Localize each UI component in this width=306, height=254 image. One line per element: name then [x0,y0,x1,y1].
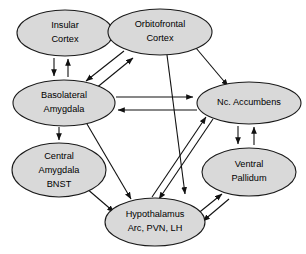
node-shape-ventral-pallidum [202,148,296,196]
brain-circuit-diagram: Insular Cortex Orbitofrontal Cortex Baso… [0,0,306,254]
node-label-orbitofrontal-cortex-line2: Cortex [146,33,173,43]
node-ventral-pallidum[interactable]: Ventral Pallidum [202,148,296,196]
diagram-canvas: Insular Cortex Orbitofrontal Cortex Baso… [0,0,306,254]
node-label-hypothalamus-line2: Arc, PVN, LH [128,223,183,233]
node-label-basolateral-amygdala-line2: Amygdala [44,104,86,114]
edge-central-amygdala-to-hypothalamus [86,188,114,212]
node-orbitofrontal-cortex[interactable]: Orbitofrontal Cortex [108,9,212,55]
edge-ventral-pallidum-to-hypothalamus [203,199,229,221]
node-label-insular-cortex-line1: Insular [51,20,79,30]
node-label-insular-cortex-line2: Cortex [51,34,78,44]
edge-basolateral-to-orbitofrontal [95,58,133,89]
node-hypothalamus[interactable]: Hypothalamus Arc, PVN, LH [105,198,205,246]
node-nc-accumbens[interactable]: Nc. Accumbens [197,82,301,124]
node-label-hypothalamus-line1: Hypothalamus [126,209,185,219]
node-label-orbitofrontal-cortex-line1: Orbitofrontal [135,19,186,29]
node-label-central-amygdala-bnst-line3: BNST [47,179,72,189]
edge-orbitofrontal-to-basolateral [86,51,124,81]
node-shape-orbitofrontal-cortex [108,9,212,55]
node-label-ventral-pallidum-line2: Pallidum [231,173,267,183]
edge-orbitofrontal-to-nc-accumbens [196,48,228,86]
node-shape-hypothalamus [105,198,205,246]
node-layer: Insular Cortex Orbitofrontal Cortex Baso… [12,9,301,246]
node-label-nc-accumbens: Nc. Accumbens [217,97,281,107]
node-label-central-amygdala-bnst-line2: Amygdala [39,165,81,175]
node-central-amygdala-bnst[interactable]: Central Amygdala BNST [12,143,106,197]
node-insular-cortex[interactable]: Insular Cortex [17,10,113,56]
node-basolateral-amygdala[interactable]: Basolateral Amygdala [13,80,115,126]
edge-nc-accumbens-to-hypothalamus [159,119,213,199]
node-label-central-amygdala-bnst-line1: Central [44,151,74,161]
node-shape-basolateral-amygdala [13,80,115,126]
node-label-ventral-pallidum-line1: Ventral [235,159,264,169]
edge-hypothalamus-to-nc-accumbens [152,117,206,197]
node-shape-insular-cortex [17,10,113,56]
node-label-basolateral-amygdala-line1: Basolateral [41,90,87,100]
